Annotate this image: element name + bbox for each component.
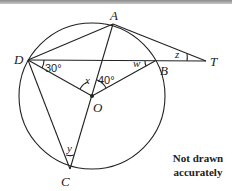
segment-DC: [28, 60, 70, 169]
tangent-AT: [113, 24, 206, 61]
angle-arc-30: [42, 60, 44, 68]
angle-arc-w: [145, 61, 146, 66]
angle-label-z: z: [174, 48, 180, 60]
angle-arc-y: [66, 155, 74, 156]
note-line-1: Not drawn: [165, 151, 231, 165]
label-O: O: [93, 100, 103, 115]
note-line-2: accurately: [165, 165, 231, 179]
label-D: D: [13, 52, 24, 67]
segment-DA: [28, 24, 113, 60]
angle-label-x: x: [84, 74, 90, 86]
angle-label-40: 40°: [98, 74, 115, 86]
angle-label-30: 30°: [45, 62, 62, 74]
label-B: B: [160, 63, 168, 78]
angle-label-y: y: [66, 142, 72, 154]
center-dot: [90, 94, 94, 98]
label-A: A: [109, 8, 118, 23]
label-C: C: [61, 174, 70, 189]
angle-label-w: w: [133, 57, 141, 69]
line-DT: [28, 60, 206, 61]
label-T: T: [210, 54, 218, 69]
not-drawn-accurately-note: Not drawn accurately: [165, 151, 231, 179]
